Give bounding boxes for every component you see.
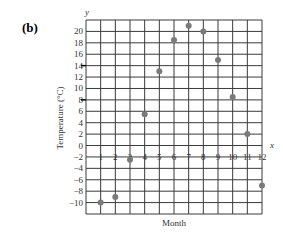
y-tick-label: 16 (74, 49, 84, 59)
data-point (142, 111, 148, 117)
data-point (156, 68, 162, 74)
x-tick-label: 5 (157, 152, 162, 162)
x-axis-letter: x (269, 140, 274, 150)
y-tick-label: 10 (74, 83, 84, 93)
x-tick-label: 1 (98, 152, 103, 162)
y-tick-label: −6 (73, 175, 83, 185)
panel-label: (b) (22, 20, 38, 35)
x-tick-label: 2 (113, 152, 118, 162)
y-tick-label: 2 (79, 129, 84, 139)
temperature-scatter-chart: (b) 20181614121086420−2−4−6−8−10 1234567… (0, 0, 283, 238)
y-tick-label: 4 (79, 118, 84, 128)
data-point (259, 182, 265, 188)
x-tick-label: 9 (216, 152, 221, 162)
x-tick-label: 6 (172, 152, 177, 162)
y-tick-label: 18 (74, 38, 84, 48)
y-axis-title: Temperature (°C) (55, 86, 65, 149)
y-axis-ticks: 20181614121086420−2−4−6−8−10 (69, 26, 86, 207)
data-point (230, 94, 236, 100)
data-point (112, 194, 118, 200)
y-tick-label: −8 (73, 186, 83, 196)
x-tick-label: 8 (201, 152, 206, 162)
grid (86, 20, 262, 214)
y-tick-label: 0 (79, 141, 84, 151)
data-point (244, 131, 250, 137)
x-tick-label: 7 (186, 152, 191, 162)
x-tick-label: 12 (258, 152, 267, 162)
data-point (186, 23, 192, 29)
data-point (171, 37, 177, 43)
y-tick-label: −4 (73, 163, 83, 173)
x-tick-label: 4 (142, 152, 147, 162)
data-points (98, 23, 265, 206)
x-tick-label: 11 (243, 152, 252, 162)
x-tick-label: 10 (228, 152, 238, 162)
data-point (215, 57, 221, 63)
y-tick-label: 20 (74, 26, 84, 36)
x-axis-title: Month (162, 218, 187, 228)
data-point (200, 28, 206, 34)
data-point (98, 200, 104, 206)
data-point (127, 157, 133, 163)
y-tick-label: −2 (73, 152, 83, 162)
y-tick-label: 12 (74, 72, 83, 82)
y-tick-label: −10 (69, 198, 84, 208)
y-tick-label: 6 (79, 106, 84, 116)
y-axis-letter: y (84, 7, 89, 17)
